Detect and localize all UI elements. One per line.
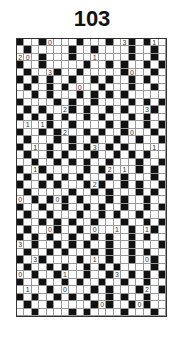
black-cell[interactable] [159, 136, 166, 143]
white-cell[interactable] [39, 159, 46, 166]
black-cell[interactable] [32, 114, 39, 121]
white-cell[interactable] [151, 91, 158, 99]
white-cell[interactable] [144, 174, 151, 181]
white-cell[interactable] [24, 144, 31, 152]
white-cell[interactable] [99, 91, 106, 99]
black-cell[interactable] [99, 129, 106, 136]
white-cell[interactable] [69, 211, 76, 218]
white-cell[interactable] [62, 211, 69, 218]
white-cell[interactable] [114, 241, 121, 248]
number-cell[interactable]: 0 [129, 129, 136, 136]
white-cell[interactable] [136, 54, 143, 61]
black-cell[interactable] [121, 144, 128, 152]
white-cell[interactable] [77, 286, 84, 293]
black-cell[interactable] [106, 61, 113, 68]
white-cell[interactable] [39, 226, 46, 233]
white-cell[interactable] [24, 196, 31, 203]
black-cell[interactable] [121, 204, 128, 212]
black-cell[interactable] [77, 196, 84, 203]
black-cell[interactable] [144, 204, 151, 212]
white-cell[interactable] [136, 144, 143, 152]
white-cell[interactable] [17, 151, 24, 158]
white-cell[interactable] [121, 136, 128, 143]
white-cell[interactable] [144, 189, 151, 196]
white-cell[interactable] [84, 136, 91, 143]
number-cell[interactable]: 1 [62, 271, 69, 278]
number-cell[interactable]: 3 [47, 69, 54, 76]
black-cell[interactable] [106, 106, 113, 113]
white-cell[interactable] [39, 264, 46, 271]
white-cell[interactable] [121, 271, 128, 278]
black-cell[interactable] [47, 84, 54, 91]
white-cell[interactable] [84, 226, 91, 233]
black-cell[interactable] [91, 301, 98, 308]
white-cell[interactable] [159, 249, 166, 256]
white-cell[interactable] [17, 264, 24, 271]
white-cell[interactable] [121, 286, 128, 293]
black-cell[interactable] [39, 166, 46, 173]
white-cell[interactable] [47, 181, 54, 188]
white-cell[interactable] [99, 76, 106, 83]
number-cell[interactable]: 3 [114, 271, 121, 278]
white-cell[interactable] [99, 99, 106, 106]
white-cell[interactable] [39, 69, 46, 76]
black-cell[interactable] [99, 279, 106, 286]
white-cell[interactable] [159, 54, 166, 61]
white-cell[interactable] [32, 106, 39, 113]
black-cell[interactable] [39, 129, 46, 136]
white-cell[interactable] [121, 76, 128, 83]
white-cell[interactable] [47, 294, 54, 301]
white-cell[interactable] [32, 204, 39, 212]
white-cell[interactable] [129, 294, 136, 301]
white-cell[interactable] [136, 106, 143, 113]
black-cell[interactable] [106, 76, 113, 83]
white-cell[interactable] [144, 54, 151, 61]
black-cell[interactable] [47, 91, 54, 99]
black-cell[interactable] [62, 174, 69, 181]
white-cell[interactable] [32, 129, 39, 136]
white-cell[interactable] [99, 309, 106, 316]
black-cell[interactable] [106, 121, 113, 128]
white-cell[interactable] [99, 61, 106, 68]
white-cell[interactable] [39, 301, 46, 308]
white-cell[interactable] [54, 46, 61, 53]
white-cell[interactable] [159, 151, 166, 158]
black-cell[interactable] [144, 234, 151, 241]
black-cell[interactable] [17, 61, 24, 68]
black-cell[interactable] [91, 99, 98, 106]
white-cell[interactable] [54, 189, 61, 196]
white-cell[interactable] [39, 136, 46, 143]
white-cell[interactable] [114, 39, 121, 46]
white-cell[interactable] [106, 69, 113, 76]
white-cell[interactable] [99, 39, 106, 46]
white-cell[interactable] [77, 136, 84, 143]
white-cell[interactable] [114, 309, 121, 316]
white-cell[interactable] [32, 264, 39, 271]
black-cell[interactable] [84, 309, 91, 316]
white-cell[interactable] [106, 211, 113, 218]
white-cell[interactable] [136, 114, 143, 121]
white-cell[interactable] [32, 99, 39, 106]
white-cell[interactable] [159, 226, 166, 233]
white-cell[interactable] [99, 159, 106, 166]
black-cell[interactable] [84, 264, 91, 271]
white-cell[interactable] [136, 256, 143, 264]
black-cell[interactable] [121, 294, 128, 301]
white-cell[interactable] [129, 189, 136, 196]
white-cell[interactable] [114, 279, 121, 286]
white-cell[interactable] [106, 114, 113, 121]
white-cell[interactable] [84, 46, 91, 53]
black-cell[interactable] [77, 69, 84, 76]
white-cell[interactable] [106, 46, 113, 53]
black-cell[interactable] [106, 286, 113, 293]
white-cell[interactable] [62, 39, 69, 46]
black-cell[interactable] [129, 249, 136, 256]
white-cell[interactable] [77, 54, 84, 61]
white-cell[interactable] [47, 136, 54, 143]
white-cell[interactable] [129, 106, 136, 113]
white-cell[interactable] [47, 99, 54, 106]
number-cell[interactable]: 1 [114, 226, 121, 233]
white-cell[interactable] [54, 54, 61, 61]
white-cell[interactable] [144, 309, 151, 316]
white-cell[interactable] [159, 166, 166, 173]
